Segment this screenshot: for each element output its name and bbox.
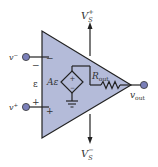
output-terminal	[140, 81, 147, 88]
supply-negative	[88, 114, 93, 144]
vs-minus-label: VS−	[81, 146, 94, 162]
supply-positive	[88, 22, 93, 56]
v-plus-label: v+	[9, 102, 19, 112]
op-amp-diagram: VS+ VS− v− v+ − − + + ε Aε + − Rout vout	[0, 0, 158, 167]
source-minus-sign: −	[70, 84, 75, 91]
epsilon-label: ε	[33, 79, 38, 89]
v-minus-label: v−	[9, 52, 19, 62]
plus-sign-outside: +	[32, 97, 40, 107]
source-plus-sign: +	[70, 75, 76, 83]
inverting-input-terminal	[22, 53, 29, 60]
minus-sign-outside: −	[32, 60, 40, 70]
noninverting-input-terminal	[22, 103, 29, 110]
plus-sign-inside: +	[46, 106, 54, 116]
vs-plus-label: VS+	[81, 8, 94, 24]
minus-sign-inside: −	[46, 53, 54, 63]
arrow-down-icon	[88, 137, 93, 144]
v-out-label: vout	[130, 90, 146, 101]
gain-label: Aε	[46, 77, 58, 87]
